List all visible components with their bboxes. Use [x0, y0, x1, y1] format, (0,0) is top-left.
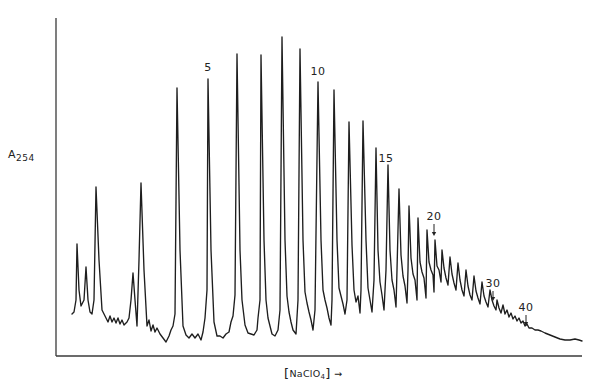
y-axis-label-main: A [8, 148, 16, 161]
absorbance-trace [72, 37, 582, 342]
y-axis-label: A254 [8, 148, 35, 163]
arrow-head-icon [432, 232, 436, 236]
peak-label-30: 30 [486, 278, 501, 289]
peak-arrows [432, 224, 528, 326]
peak-label-10: 10 [311, 66, 326, 77]
right-arrow-icon: → [334, 368, 342, 379]
peak-label-40: 40 [519, 302, 534, 313]
y-axis-label-subscript: 254 [16, 153, 35, 163]
chromatogram-plot [0, 0, 600, 388]
x-axis-label-main: NaClO [289, 368, 320, 379]
peak-label-5: 5 [204, 62, 212, 73]
peak-label-20: 20 [427, 211, 442, 222]
x-axis-label: [NaClO4] → [284, 366, 342, 381]
close-bracket: ] [325, 366, 330, 381]
peak-label-15: 15 [379, 153, 394, 164]
